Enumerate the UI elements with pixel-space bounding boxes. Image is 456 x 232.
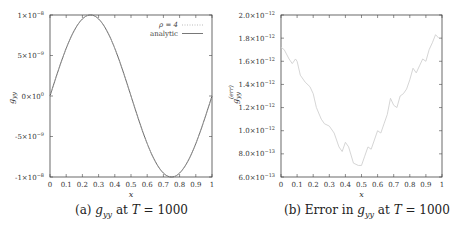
y-tick-label: 1.0×10−12 (239, 125, 275, 135)
x-tick-label: 0.7 (388, 181, 399, 189)
caption-b-prefix: (b) Error in (284, 203, 353, 217)
x-axis-label: x (129, 190, 134, 199)
x-tick-label: 0.2 (77, 181, 88, 189)
caption-b-eq: = 1000 (405, 203, 449, 217)
x-tick-label: 0.1 (292, 181, 303, 189)
caption-a-at: at (116, 203, 128, 217)
y-tick-label: 1.2×10−12 (239, 102, 275, 112)
y-axis-label: gyy (7, 91, 18, 104)
y-tick-label: 2.0×10−12 (239, 10, 275, 20)
y-tick-label: 1.6×10−12 (239, 56, 275, 66)
x-tick-label: 0.5 (356, 181, 367, 189)
y-tick-label: -5×10−9 (15, 131, 44, 141)
caption-a: (a) gyy at T = 1000 (75, 203, 188, 219)
x-tick-label: 0.4 (340, 181, 352, 189)
x-tick-label: 0.9 (420, 181, 431, 189)
x-tick-label: 0 (279, 181, 283, 189)
caption-a-prefix: (a) (75, 203, 92, 217)
figure: 00.10.20.30.40.50.60.70.80.911×10−85×10−… (0, 0, 456, 232)
caption-a-T: T (132, 203, 140, 217)
caption-b-sub: yy (365, 210, 374, 219)
y-tick-label: 1×10−8 (17, 10, 44, 20)
caption-b-var: g (357, 203, 365, 217)
caption-b-at: at (378, 203, 390, 217)
legend-label-rho4: ρ = 4 (158, 21, 178, 29)
x-tick-label: 0.5 (125, 181, 136, 189)
y-tick-label: 0×100 (22, 91, 44, 101)
x-tick-label: 0.3 (93, 181, 104, 189)
x-tick-label: 1 (210, 181, 214, 189)
caption-b-T: T (394, 203, 402, 217)
x-tick-label: 1 (440, 181, 444, 189)
caption-a-eq: = 1000 (144, 203, 188, 217)
x-tick-label: 0.1 (61, 181, 72, 189)
x-tick-label: 0.9 (190, 181, 201, 189)
x-tick-label: 0.8 (174, 181, 185, 189)
legend: ρ = 4analytic (150, 21, 203, 38)
caption-a-var: g (95, 203, 103, 217)
x-tick-label: 0.4 (109, 181, 121, 189)
x-tick-label: 0 (48, 181, 52, 189)
x-axis-label: x (359, 190, 364, 199)
error-curve (281, 35, 439, 166)
plot-frame (281, 15, 442, 177)
x-tick-label: 0.2 (308, 181, 319, 189)
x-tick-label: 0.7 (158, 181, 169, 189)
x-tick-label: 0.8 (404, 181, 415, 189)
chart-b-error: 00.10.20.30.40.50.60.70.80.912.0×10−121.… (227, 10, 444, 200)
y-tick-label: 8.0×10−13 (239, 148, 275, 158)
chart-a-gyy: 00.10.20.30.40.50.60.70.80.911×10−85×10−… (7, 10, 214, 200)
x-tick-label: 0.6 (142, 181, 154, 189)
y-tick-label: 1.8×10−12 (239, 33, 275, 43)
x-tick-label: 0.6 (372, 181, 384, 189)
caption-b: (b) Error in gyy at T = 1000 (284, 203, 450, 219)
y-tick-label: 1.4×10−12 (239, 79, 275, 89)
y-tick-label: 6.0×10−13 (239, 172, 275, 182)
y-tick-label: 5×10−9 (17, 50, 44, 60)
legend-label-analytic: analytic (150, 30, 178, 38)
x-tick-label: 0.3 (324, 181, 335, 189)
caption-a-sub: yy (103, 210, 112, 219)
analytic-curve (50, 15, 212, 177)
y-tick-label: -1×10−8 (15, 172, 44, 182)
